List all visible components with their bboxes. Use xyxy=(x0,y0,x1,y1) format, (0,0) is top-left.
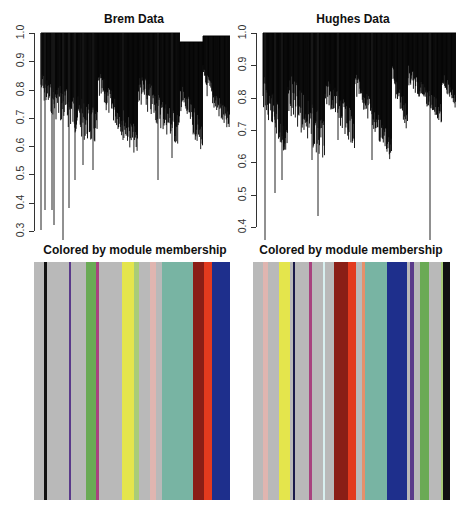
y-tick-label: 0.5 xyxy=(236,182,248,206)
module-color-bar-brem xyxy=(34,262,230,500)
module-stripe xyxy=(420,262,429,500)
y-tick xyxy=(251,98,256,99)
y-tick xyxy=(29,118,34,119)
module-stripe xyxy=(212,262,230,500)
chart-title-brem: Brem Data xyxy=(34,12,234,26)
module-stripe xyxy=(443,262,450,500)
module-stripe xyxy=(99,262,122,500)
module-bar-title-brem: Colored by module membership xyxy=(20,243,250,257)
y-tick-label: 0.8 xyxy=(236,85,248,109)
module-stripe xyxy=(268,262,279,500)
module-stripe xyxy=(71,262,86,500)
module-stripe xyxy=(387,262,407,500)
module-stripe xyxy=(334,262,348,500)
y-tick-label: 0.7 xyxy=(14,105,26,129)
y-tick-label: 0.9 xyxy=(236,52,248,76)
y-tick-label: 0.9 xyxy=(14,48,26,72)
module-stripe xyxy=(325,262,334,500)
y-tick xyxy=(29,61,34,62)
module-stripe xyxy=(47,262,69,500)
y-axis-hughes xyxy=(256,33,257,227)
y-tick-label: 0.7 xyxy=(236,117,248,141)
dendrogram-hughes xyxy=(260,30,460,245)
module-stripe xyxy=(193,262,204,500)
y-tick xyxy=(29,231,34,232)
y-tick-label: 0.6 xyxy=(14,133,26,157)
module-color-bar-hughes xyxy=(253,262,450,500)
module-stripe xyxy=(122,262,134,500)
y-tick-label: 0.5 xyxy=(14,161,26,185)
module-stripe xyxy=(365,262,387,500)
y-tick xyxy=(29,90,34,91)
y-tick-label: 0.3 xyxy=(14,218,26,242)
y-tick xyxy=(29,174,34,175)
y-tick xyxy=(29,203,34,204)
module-stripe xyxy=(279,262,290,500)
module-stripe xyxy=(253,262,263,500)
y-tick xyxy=(29,33,34,34)
dendrogram-brem xyxy=(38,30,233,245)
y-tick xyxy=(251,130,256,131)
module-bar-title-hughes: Colored by module membership xyxy=(240,243,462,257)
module-stripe xyxy=(162,262,193,500)
module-stripe xyxy=(312,262,323,500)
y-tick-label: 0.4 xyxy=(14,190,26,214)
module-stripe xyxy=(204,262,212,500)
chart-title-hughes: Hughes Data xyxy=(253,12,453,26)
module-stripe xyxy=(139,262,150,500)
y-tick-label: 0.6 xyxy=(236,149,248,173)
y-tick-label: 0.4 xyxy=(236,214,248,238)
module-stripe xyxy=(295,262,309,500)
y-tick-label: 1.0 xyxy=(236,20,248,44)
y-tick xyxy=(251,227,256,228)
y-tick xyxy=(251,65,256,66)
y-axis-brem xyxy=(34,33,35,231)
module-stripe xyxy=(34,262,44,500)
y-tick-label: 1.0 xyxy=(14,20,26,44)
y-tick-label: 0.8 xyxy=(14,77,26,101)
module-stripe xyxy=(429,262,441,500)
y-tick xyxy=(251,162,256,163)
y-tick xyxy=(29,146,34,147)
y-tick xyxy=(251,33,256,34)
module-stripe xyxy=(86,262,96,500)
y-tick xyxy=(251,195,256,196)
module-stripe xyxy=(348,262,356,500)
